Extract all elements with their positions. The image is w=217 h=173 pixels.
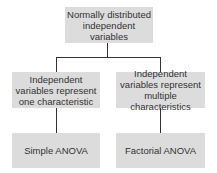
connector-left-down [56,57,57,72]
root-line-1: Normally distributed [65,9,153,20]
left-line-1: Independent [16,74,97,85]
right-line-2: variables represent [116,79,205,90]
connector-right-result [160,108,161,133]
right-node: Independentvariables representmultiple c… [116,72,205,108]
root-line-2: independent variables [65,20,153,42]
left-line-2: variables represent [16,85,97,96]
connector-horizontal [56,57,161,58]
right-result-node: Factorial ANOVA [116,133,205,168]
root-node: Normally distributedindependent variable… [65,7,153,43]
right-line-1: Independent [116,68,205,79]
right-result-label: Factorial ANOVA [125,145,196,156]
left-result-label: Simple ANOVA [24,145,88,156]
connector-left-result [56,108,57,133]
connector-root-down [107,43,108,58]
left-node: Independentvariables representone charac… [12,72,100,108]
left-line-3: one characteristic [16,96,97,107]
left-result-node: Simple ANOVA [12,133,100,168]
